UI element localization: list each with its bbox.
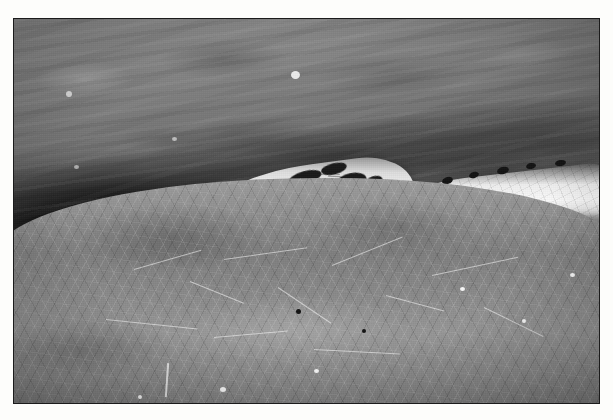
photo-frame — [13, 18, 600, 404]
photo-image — [14, 19, 599, 403]
photograph-page — [0, 0, 613, 420]
vignette — [14, 19, 599, 403]
